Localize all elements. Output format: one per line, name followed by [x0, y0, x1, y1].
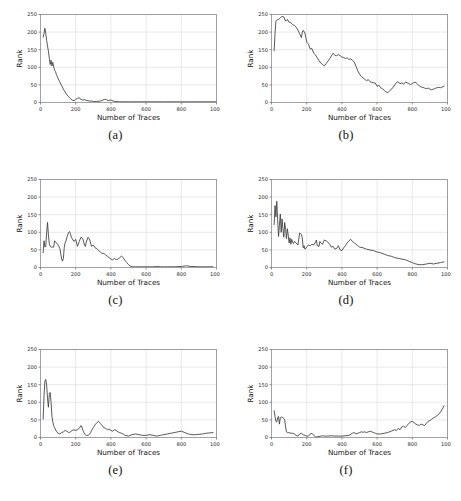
chart-svg-b: 05010015020025002004006008001000Number o…	[245, 8, 451, 126]
svg-text:600: 600	[141, 106, 151, 112]
x-axis-title: Number of Traces	[328, 113, 391, 122]
plot-area-b: 05010015020025002004006008001000Number o…	[245, 8, 451, 126]
plot-area-a: 05010015020025002004006008001000Number o…	[14, 8, 220, 126]
svg-text:800: 800	[176, 106, 186, 112]
svg-text:50: 50	[31, 82, 37, 88]
x-axis-title: Number of Traces	[97, 113, 160, 122]
subplot-caption-f: (f)	[231, 463, 461, 478]
plot-area-f: 05010015020025002004006008001000Number o…	[245, 343, 451, 461]
svg-text:50: 50	[262, 417, 268, 423]
svg-text:400: 400	[106, 441, 116, 447]
chart-svg-c: 05010015020025002004006008001000Number o…	[14, 173, 220, 291]
series-path	[274, 201, 444, 264]
svg-text:1000: 1000	[441, 106, 451, 112]
svg-text:200: 200	[71, 106, 81, 112]
svg-text:100: 100	[258, 399, 268, 405]
svg-text:800: 800	[407, 441, 417, 447]
subplot-panel-f: 05010015020025002004006008001000Number o…	[231, 335, 461, 501]
x-axis-title: Number of Traces	[328, 448, 391, 457]
svg-text:200: 200	[27, 29, 37, 35]
chart-svg-a: 05010015020025002004006008001000Number o…	[14, 8, 220, 126]
svg-text:200: 200	[27, 364, 37, 370]
series-path	[43, 222, 213, 266]
svg-text:0: 0	[34, 434, 37, 440]
svg-text:600: 600	[141, 271, 151, 277]
svg-text:600: 600	[372, 441, 382, 447]
svg-text:600: 600	[372, 106, 382, 112]
svg-text:200: 200	[71, 271, 81, 277]
x-axis-title: Number of Traces	[97, 278, 160, 287]
svg-text:200: 200	[258, 194, 268, 200]
subplot-grid: 05010015020025002004006008001000Number o…	[0, 0, 461, 501]
svg-text:1000: 1000	[210, 271, 220, 277]
svg-text:400: 400	[337, 271, 347, 277]
chart-svg-d: 05010015020025002004006008001000Number o…	[245, 173, 451, 291]
subplot-caption-b: (b)	[231, 128, 461, 143]
svg-text:50: 50	[31, 417, 37, 423]
svg-text:50: 50	[31, 247, 37, 253]
subplot-panel-b: 05010015020025002004006008001000Number o…	[231, 0, 461, 165]
svg-text:200: 200	[302, 106, 312, 112]
svg-text:800: 800	[176, 271, 186, 277]
svg-text:250: 250	[258, 346, 268, 352]
svg-text:150: 150	[27, 212, 37, 218]
svg-text:50: 50	[262, 82, 268, 88]
y-axis-title: Rank	[246, 49, 255, 68]
svg-text:1000: 1000	[210, 106, 220, 112]
y-axis-title: Rank	[246, 384, 255, 403]
svg-text:800: 800	[407, 106, 417, 112]
svg-text:0: 0	[270, 271, 273, 277]
chart-svg-e: 05010015020025002004006008001000Number o…	[14, 343, 220, 461]
subplot-caption-c: (c)	[0, 293, 231, 308]
svg-text:0: 0	[265, 99, 268, 105]
svg-text:100: 100	[27, 64, 37, 70]
svg-text:0: 0	[270, 106, 273, 112]
svg-text:600: 600	[141, 441, 151, 447]
svg-text:1000: 1000	[441, 271, 451, 277]
series-path	[274, 16, 444, 92]
svg-text:150: 150	[258, 47, 268, 53]
svg-text:1000: 1000	[441, 441, 451, 447]
svg-text:250: 250	[258, 11, 268, 17]
svg-text:100: 100	[27, 399, 37, 405]
series-path	[43, 379, 213, 436]
chart-svg-f: 05010015020025002004006008001000Number o…	[245, 343, 451, 461]
svg-text:600: 600	[372, 271, 382, 277]
svg-text:150: 150	[258, 212, 268, 218]
svg-text:0: 0	[265, 264, 268, 270]
svg-text:150: 150	[27, 47, 37, 53]
svg-text:400: 400	[106, 271, 116, 277]
svg-text:1000: 1000	[210, 441, 220, 447]
svg-text:150: 150	[27, 382, 37, 388]
series-path	[43, 28, 216, 102]
svg-text:800: 800	[176, 441, 186, 447]
svg-text:250: 250	[258, 176, 268, 182]
svg-text:400: 400	[106, 106, 116, 112]
svg-text:200: 200	[302, 441, 312, 447]
y-axis-title: Rank	[15, 49, 24, 68]
svg-text:0: 0	[265, 434, 268, 440]
subplot-panel-a: 05010015020025002004006008001000Number o…	[0, 0, 231, 165]
svg-text:200: 200	[302, 271, 312, 277]
svg-text:400: 400	[337, 106, 347, 112]
svg-text:400: 400	[337, 441, 347, 447]
series-path	[274, 406, 444, 437]
y-axis-title: Rank	[15, 214, 24, 233]
svg-text:0: 0	[270, 441, 273, 447]
svg-text:100: 100	[258, 229, 268, 235]
svg-text:0: 0	[34, 99, 37, 105]
svg-text:0: 0	[39, 271, 42, 277]
svg-text:250: 250	[27, 346, 37, 352]
plot-area-d: 05010015020025002004006008001000Number o…	[245, 173, 451, 291]
subplot-caption-e: (e)	[0, 463, 231, 478]
subplot-caption-d: (d)	[231, 293, 461, 308]
svg-text:200: 200	[258, 29, 268, 35]
svg-text:250: 250	[27, 11, 37, 17]
svg-text:50: 50	[262, 247, 268, 253]
svg-text:800: 800	[407, 271, 417, 277]
svg-text:0: 0	[39, 106, 42, 112]
figure-page: 05010015020025002004006008001000Number o…	[0, 0, 461, 501]
svg-text:100: 100	[27, 229, 37, 235]
svg-text:0: 0	[39, 441, 42, 447]
svg-text:200: 200	[258, 364, 268, 370]
